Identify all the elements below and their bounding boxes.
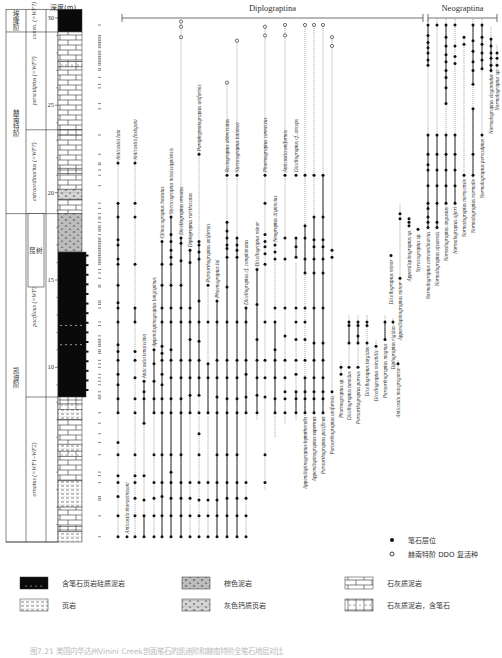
zone-label: ornatus (=WF1–WF2) <box>31 442 38 496</box>
group-label: Neograptina <box>441 3 483 13</box>
species-label: Dicellograptus cf. complanatus <box>243 240 249 306</box>
species-label: Paraorthograptus magnus <box>382 343 388 399</box>
species-label: Paraplegmatograptus uniformis <box>196 85 202 153</box>
zone-label: pacificus (=WF3) <box>31 284 38 328</box>
legend-item-grey-calcareous-shale: 灰色钙质页岩 <box>182 599 266 611</box>
species-label: Paraorthograptus uniformis <box>329 396 335 456</box>
species-range: Dicellograptus turgidus <box>364 315 370 397</box>
species-range: Appendispinograptus sp. <box>406 217 412 282</box>
species-range: Normalograptus persculptus <box>479 18 485 200</box>
species-range: Diplograptus rigidus <box>390 318 396 370</box>
legend-item-limestone: 石灰质泥岩 <box>345 577 422 589</box>
lithology-bed <box>58 67 82 130</box>
svg-text:阶: 阶 <box>13 380 20 389</box>
taxonomic-group-bars: DiplograptinaNeograptina <box>122 3 497 22</box>
lithology-swatch-icon <box>345 577 373 589</box>
species-label: Anticostia fastigata <box>132 119 138 161</box>
lithology-bed <box>58 456 82 480</box>
lithology-bed <box>58 397 82 404</box>
lithology-bed <box>58 189 82 199</box>
species-label: Appendispinograptus sp. <box>406 230 412 283</box>
species-range: Neograptus dispinctus <box>272 196 278 438</box>
species-range: Diplograptus rarithecatus <box>187 193 193 538</box>
lithology-swatch-icon <box>345 599 373 611</box>
stage-label: 赫南特阶 <box>13 109 20 138</box>
legend-item-shale: 页岩 <box>20 599 76 611</box>
lithology-swatch-icon <box>20 599 48 611</box>
species-label: Styracograptus tatianae <box>234 122 240 173</box>
species-label: Normalograptus extraordinarius <box>425 232 431 301</box>
species-label: Neograptus dispinctus <box>272 196 278 244</box>
zone-label: convo. (=WF?) <box>31 2 38 39</box>
depth-tick-label: 25 <box>48 101 55 108</box>
species-label: Appendispinograptus supernus <box>311 417 317 482</box>
lithology-bed <box>58 532 82 542</box>
species-range: Paraorthograptus pacificus <box>320 23 326 475</box>
species-range: Normalograptus mirnyensis <box>461 35 467 238</box>
species-label: Paraorthograptus uniformis <box>205 224 211 284</box>
species-range: Climacograptus hastatus <box>159 187 165 539</box>
legend-markers: 笔石层位 赫南特阶 DDO 复活种 <box>390 536 478 559</box>
lithology-bed <box>58 404 82 409</box>
species-range: Anticostia tenuissima <box>141 333 147 538</box>
lithology-bed <box>58 168 82 173</box>
lithology-bed <box>58 130 82 135</box>
species-range: Normalograptus ajjeri <box>452 18 458 255</box>
species-label: Dicellograptus minor <box>254 221 260 268</box>
lithology-bed <box>58 135 82 168</box>
depth-tick-label: 15 <box>48 276 55 283</box>
depth-tick-label: 20 <box>48 189 55 196</box>
species-range: Styracograptus tatianae <box>234 39 240 538</box>
species-label: Anticostia tenuissima <box>141 333 147 379</box>
lithology-bed <box>58 214 82 252</box>
lithology-swatch-icon <box>20 577 48 589</box>
species-label: Dicellograptus cf. anceps <box>293 119 299 173</box>
species-range: Appendispinograptus longispinus <box>151 277 157 538</box>
species-range: Normalograptus sp. <box>494 44 500 111</box>
species-range: Phormograptus connectus <box>262 25 268 489</box>
species-range: Dicellograptus mirabilis <box>373 339 379 402</box>
lithology-swatch-icon <box>182 599 210 611</box>
species-range: Paraorthograptus magnus <box>382 315 388 399</box>
legend-label: 页岩 <box>62 601 76 610</box>
species-label: Paraorthograptus pacificus <box>320 417 326 476</box>
species-range: Styracograptus mississippiensis <box>168 148 174 538</box>
species-range: Paraorthograptus uniformis <box>205 224 211 539</box>
lithology-legend: 含笔石页岩硅质泥岩棕色泥岩石灰质泥岩页岩灰色钙质页岩石灰质泥岩，含笔石 <box>20 577 450 611</box>
species-label: Climacograptus hastatus <box>159 187 165 239</box>
zone-label: persculptus (=WF?) <box>31 56 38 106</box>
group-label: Diplograptina <box>249 3 296 13</box>
species-range: Anticostia macgregorae <box>395 360 401 418</box>
species-range: Anticostia lata <box>115 129 121 538</box>
species-range: Anticostia fastigata <box>132 119 138 538</box>
species-range: Phaenograptus lui <box>214 259 220 538</box>
species-range: Dicellograptus cf. complanatus <box>243 240 249 539</box>
lithology-bed <box>58 62 82 67</box>
species-range: Normalograptus normalis <box>470 18 476 234</box>
species-range: Dicellograptus ornatus <box>178 20 184 538</box>
legend-item-black-siliceous: 含笔石页岩硅质泥岩 <box>20 577 125 589</box>
species-range-lines: Anticostia lataAnticostia fastigataAntic… <box>115 18 500 538</box>
species-label: Paraorthograptus parvus <box>355 371 361 425</box>
species-label: Normalograptus sp. <box>494 69 500 112</box>
graptolite-level-marker-icon <box>390 538 394 542</box>
stage-label: 凯迪阶 <box>13 367 20 389</box>
depth-tick-label: 30 <box>48 14 55 21</box>
lithology-bed <box>58 526 82 531</box>
species-label: Dicellograptus mirabilis <box>373 350 379 402</box>
species-label: Dicellograptus turgidus <box>364 347 370 398</box>
species-label: Normalograptus angustus <box>443 207 449 262</box>
lithology-bed <box>58 252 86 397</box>
lithology-bed <box>58 9 82 32</box>
species-label: Normalograptus ajjeri <box>452 207 458 255</box>
species-range: Paraorthograptus parvus <box>355 315 361 425</box>
legend-label: 石灰质泥岩 <box>387 579 422 588</box>
species-label: Styracograptus sp. <box>415 233 421 272</box>
legend-graptolite-level: 笔石层位 <box>408 536 436 545</box>
lithology-bed <box>58 173 82 189</box>
legend-label: 灰色钙质页岩 <box>224 601 266 610</box>
species-label: Styracograptus mississippiensis <box>168 148 174 214</box>
species-label: Anticostia macgregorae <box>395 367 401 418</box>
species-label: Dicellograptus ornatus <box>178 187 184 236</box>
stage-label: 埃隆阶 <box>13 9 20 32</box>
